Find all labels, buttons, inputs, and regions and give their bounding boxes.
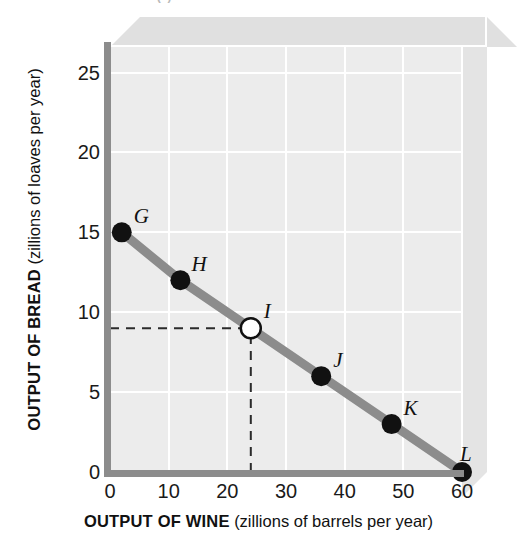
frontier-line-layer xyxy=(122,232,462,472)
y-tick-label: 15 xyxy=(60,222,100,242)
data-point-h[interactable] xyxy=(170,270,190,290)
data-point-i[interactable] xyxy=(241,318,261,338)
data-point-j[interactable] xyxy=(311,366,331,386)
x-axis-line xyxy=(104,470,464,477)
data-point-label-k: K xyxy=(404,398,418,419)
y-axis-title: OUTPUT OF BREAD (zillions of loaves per … xyxy=(25,20,44,480)
y-axis-title-normal: (zillions of loaves per year) xyxy=(25,68,43,264)
x-tick-label: 50 xyxy=(378,481,428,501)
data-point-label-l: L xyxy=(460,444,472,465)
y-axis-title-bold: OUTPUT OF BREAD xyxy=(25,269,43,431)
x-axis-title: OUTPUT OF WINE (zillions of barrels per … xyxy=(0,512,517,531)
y-tick-label: 20 xyxy=(60,142,100,162)
y-tick-label: 25 xyxy=(60,63,100,83)
x-tick-label: 30 xyxy=(261,481,311,501)
y-tick-label: 0 xyxy=(60,462,100,482)
x-tick-label: 0 xyxy=(85,481,135,501)
y-axis-line xyxy=(104,42,111,477)
plot-area: GHIJKL xyxy=(110,47,462,472)
data-point-label-j: J xyxy=(333,350,342,371)
x-axis-title-normal: (zillions of barrels per year) xyxy=(234,512,433,530)
x-tick-label: 40 xyxy=(320,481,370,501)
chart-figure: (a) Production Possibilities Frontier GH… xyxy=(0,0,517,556)
frontier-line xyxy=(122,232,462,472)
x-tick-label: 10 xyxy=(144,481,194,501)
guideline-layer xyxy=(110,328,251,472)
x-tick-label: 20 xyxy=(202,481,252,501)
box3d-top-face xyxy=(140,17,487,47)
data-point-label-g: G xyxy=(134,206,149,227)
box3d-top-right-wedge xyxy=(487,17,517,47)
data-point-label-h: H xyxy=(191,254,206,275)
x-axis-title-bold: OUTPUT OF WINE xyxy=(84,512,230,530)
y-tick-label: 10 xyxy=(60,302,100,322)
data-point-k[interactable] xyxy=(382,414,402,434)
box3d-right-face xyxy=(462,47,487,472)
y-tick-label: 5 xyxy=(60,382,100,402)
x-tick-label: 60 xyxy=(437,481,487,501)
y-axis-tick-labels: 0510152025 xyxy=(52,0,100,556)
box3d-top-left-wedge xyxy=(110,17,140,47)
data-point-g[interactable] xyxy=(112,222,132,242)
box3d-right-highlight xyxy=(485,17,487,47)
data-point-label-i: I xyxy=(264,301,271,322)
